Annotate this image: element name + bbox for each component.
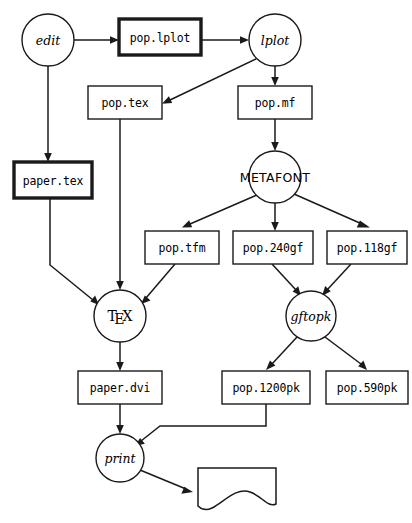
node-edit-label: edit: [36, 33, 61, 48]
node-lplot-label: lplot: [261, 33, 291, 48]
edge-tex-to-paper-dvi: [116, 342, 124, 371]
node-tex[interactable]: TEX: [94, 290, 146, 342]
node-pop-lplot[interactable]: pop.lplot: [119, 19, 201, 55]
edge-paper-dvi-to-print: [116, 404, 124, 434]
edge-pop-1200pk-to-print: [135, 404, 266, 446]
node-pop-118gf-label: pop.118gf: [337, 241, 398, 255]
edge-lplot-to-pop-mf: [271, 66, 279, 86]
node-gftopk-label: gftopk: [291, 309, 332, 324]
node-paper-dvi[interactable]: paper.dvi: [78, 371, 162, 404]
node-metafont-label: METAFONT: [240, 170, 310, 185]
edge-pop-lplot-to-lplot: [201, 36, 249, 44]
node-pop-mf[interactable]: pop.mf: [238, 86, 312, 119]
node-pop-lplot-label: pop.lplot: [130, 31, 191, 45]
edge-metafont-to-pop-118gf: [294, 194, 370, 228]
node-paper-tex-label: paper.tex: [23, 174, 84, 188]
node-pop-590pk-label: pop.590pk: [337, 381, 398, 395]
node-pop-1200pk[interactable]: pop.1200pk: [222, 371, 310, 404]
node-metafont[interactable]: METAFONT: [240, 151, 310, 203]
node-pop-590pk[interactable]: pop.590pk: [326, 371, 408, 404]
edge-edit-to-paper-tex: [44, 66, 52, 162]
node-pop-mf-label: pop.mf: [255, 96, 295, 110]
node-pop-1200pk-label: pop.1200pk: [232, 381, 300, 395]
node-pop-tfm[interactable]: pop.tfm: [145, 231, 219, 264]
node-print-label: print: [104, 451, 136, 466]
node-pop-tfm-label: pop.tfm: [158, 241, 205, 255]
node-gftopk[interactable]: gftopk: [286, 291, 336, 341]
edge-gftopk-to-pop-1200pk: [266, 337, 297, 370]
edge-metafont-to-pop-240gf: [271, 203, 279, 231]
edge-pop-mf-to-metafont: [271, 119, 279, 151]
edge-metafont-to-pop-tfm: [182, 195, 257, 228]
edge-paper-tex-to-tex: [50, 198, 99, 305]
flowchart-svg: edit pop.lplot lplot pop.tex pop.mf pape…: [0, 0, 412, 523]
node-print[interactable]: print: [96, 434, 144, 482]
edge-edit-to-pop-lplot: [74, 36, 119, 44]
node-pop-118gf[interactable]: pop.118gf: [327, 231, 407, 264]
edge-gftopk-to-pop-590pk: [325, 337, 367, 370]
node-pop-240gf[interactable]: pop.240gf: [233, 231, 313, 264]
node-pop-240gf-label: pop.240gf: [243, 241, 304, 255]
edge-pop-240gf-to-gftopk: [272, 264, 301, 296]
node-edit[interactable]: edit: [22, 14, 74, 66]
edge-pop-tfm-to-tex: [141, 264, 175, 304]
edge-pop-118gf-to-gftopk: [322, 264, 351, 296]
flowchart-canvas: edit pop.lplot lplot pop.tex pop.mf pape…: [0, 0, 412, 523]
node-layer: edit pop.lplot lplot pop.tex pop.mf pape…: [14, 14, 408, 509]
node-paper-dvi-label: paper.dvi: [90, 381, 151, 395]
node-paper-tex[interactable]: paper.tex: [14, 162, 92, 198]
edge-print-to-printout: [140, 470, 193, 494]
node-pop-tex-label: pop.tex: [101, 96, 148, 110]
node-lplot[interactable]: lplot: [249, 14, 301, 66]
edge-pop-tex-to-tex: [116, 119, 124, 290]
node-printout-document[interactable]: [198, 468, 276, 509]
node-pop-tex[interactable]: pop.tex: [88, 86, 162, 119]
